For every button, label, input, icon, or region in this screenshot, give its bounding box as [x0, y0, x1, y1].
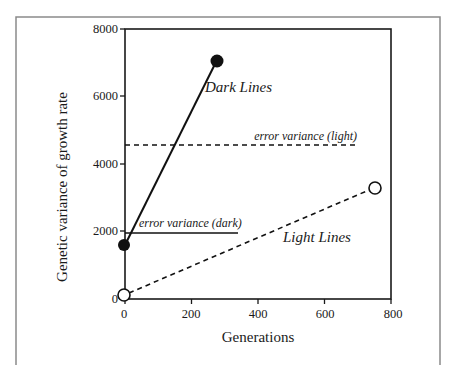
x-tick-label: 200 [182, 307, 201, 321]
dark-end-marker [211, 55, 224, 68]
y-tick-label: 6000 [93, 89, 118, 103]
x-axis-title: Generations [222, 329, 295, 345]
y-tick-label: 0 [112, 292, 118, 306]
y-tick-label: 2000 [93, 224, 118, 238]
x-tick-label: 800 [384, 307, 403, 321]
y-axis: 0 2000 4000 6000 8000 [93, 22, 125, 306]
error-variance-light-label: error variance (light) [254, 129, 357, 143]
dark-lines-label: Dark Lines [204, 79, 272, 95]
y-tick-label: 8000 [93, 22, 118, 36]
x-tick-label: 0 [121, 307, 127, 321]
light-lines-label: Light Lines [282, 229, 351, 245]
x-tick-label: 400 [249, 307, 268, 321]
dark-start-marker [118, 239, 130, 251]
chart: 0 2000 4000 6000 8000 0 200 400 600 800 … [0, 0, 454, 365]
light-start-marker [118, 289, 130, 301]
y-tick-label: 4000 [93, 157, 118, 171]
x-tick-label: 600 [316, 307, 335, 321]
y-axis-title: Genetic variance of growth rate [54, 92, 70, 282]
x-axis: 0 200 400 600 800 [121, 299, 403, 321]
error-variance-dark-label: error variance (dark) [139, 216, 242, 230]
light-end-marker [369, 182, 381, 194]
